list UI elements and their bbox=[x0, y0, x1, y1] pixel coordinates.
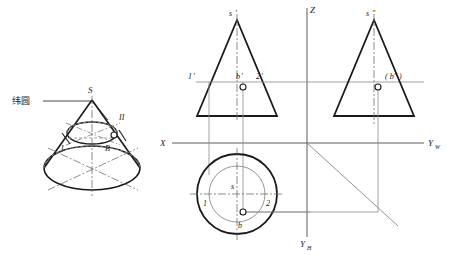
top-view-label-point-one: 1 bbox=[203, 199, 207, 208]
svg-text:s: s bbox=[229, 9, 232, 18]
svg-text:1: 1 bbox=[188, 72, 192, 81]
svg-text:H: H bbox=[306, 245, 312, 251]
top-view-label-point-two: 2 bbox=[266, 199, 270, 208]
top-view-label-apex: s bbox=[231, 182, 234, 191]
svg-text:b: b bbox=[236, 72, 240, 81]
axis-label-yw: Y W bbox=[428, 138, 441, 150]
point-b-marker bbox=[111, 132, 117, 138]
technical-drawing-figure: S I II B 纬圆 Z X Y W Y H bbox=[0, 0, 457, 255]
svg-text:Y: Y bbox=[300, 239, 306, 249]
front-view-label-point-one: 1 ′ bbox=[188, 72, 195, 81]
svg-text:′: ′ bbox=[193, 72, 195, 81]
svg-text:Y: Y bbox=[428, 138, 434, 148]
svg-text:′: ′ bbox=[261, 72, 263, 81]
svg-text:2: 2 bbox=[256, 72, 260, 81]
axis-label-x: X bbox=[159, 138, 166, 148]
side-view-label-point-b: ( b″ ) bbox=[385, 72, 402, 81]
mitre-line-45deg bbox=[307, 143, 398, 226]
side-view-point-b-marker bbox=[375, 84, 381, 90]
pictorial-label-point-two: II bbox=[118, 113, 125, 122]
cone-pictorial-view: S I II B 纬圆 bbox=[12, 85, 140, 196]
front-view-point-b-marker bbox=[240, 84, 246, 90]
svg-text:″: ″ bbox=[372, 9, 376, 18]
pictorial-label-point-one: I bbox=[60, 144, 64, 153]
latitude-leader-line bbox=[43, 101, 108, 120]
cone-slant-left bbox=[44, 100, 92, 168]
front-view-label-point-b: b ′ bbox=[236, 72, 243, 81]
side-view-label-apex: s ″ bbox=[366, 9, 376, 18]
svg-text:′: ′ bbox=[235, 9, 237, 18]
top-view-label-point-b: b bbox=[238, 221, 242, 230]
latitude-circle-label: 纬圆 bbox=[12, 95, 30, 106]
svg-text:′: ′ bbox=[241, 72, 243, 81]
front-view-label-point-two: 2 ′ bbox=[256, 72, 263, 81]
front-view-label-apex: s ′ bbox=[229, 9, 237, 18]
side-view: s ″ ( b″ ) bbox=[334, 9, 414, 143]
pictorial-label-point-b: B bbox=[105, 144, 110, 153]
svg-text:s: s bbox=[366, 9, 369, 18]
top-view-point-b-marker bbox=[240, 209, 246, 215]
front-view: s ′ 1 ′ b ′ 2 ′ bbox=[188, 9, 424, 212]
axis-label-yh: Y H bbox=[300, 239, 312, 251]
pictorial-label-apex: S bbox=[88, 85, 93, 95]
axis-label-z: Z bbox=[310, 5, 316, 15]
point-one-tick bbox=[62, 133, 70, 144]
top-view: s 1 2 b bbox=[190, 148, 310, 241]
svg-text:W: W bbox=[435, 144, 441, 150]
orthographic-projection: Z X Y W Y H s ′ bbox=[159, 5, 441, 251]
